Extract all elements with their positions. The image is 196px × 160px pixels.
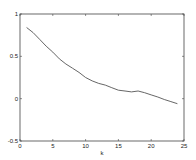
y-tick-label: 0 (15, 96, 19, 102)
x-tick-label: 20 (148, 143, 155, 149)
y-tick-label: 1 (15, 11, 19, 17)
y-tick-label: -0.5 (8, 138, 19, 144)
x-tick-label: 5 (51, 143, 55, 149)
x-tick-label: 15 (115, 143, 122, 149)
x-tick-label: 0 (18, 143, 22, 149)
line-chart: 0510152025 -0.500.51 k (0, 0, 196, 160)
x-tick-label: 25 (181, 143, 188, 149)
x-tick-label: 10 (82, 143, 89, 149)
plot-area (20, 14, 184, 141)
y-tick-label: 0.5 (10, 53, 19, 59)
x-axis-label: k (101, 150, 105, 156)
